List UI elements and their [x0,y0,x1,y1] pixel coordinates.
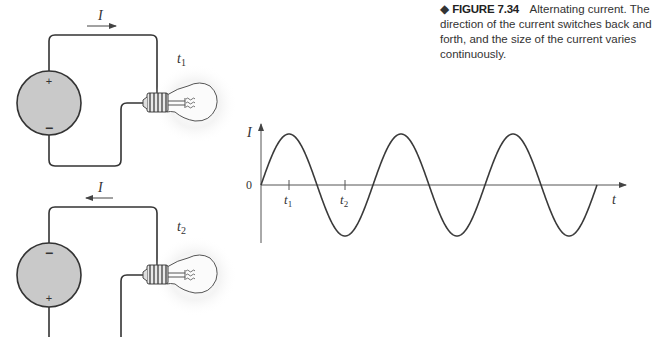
tick-t2-label: t2 [340,192,348,209]
origin-label: 0 [246,178,252,192]
current-2-label: I [97,180,104,195]
figure-canvas: + − I t1 − + I t2 [0,0,666,337]
battery-2-bottom-sign: + [46,292,52,304]
current-1-label: I [97,8,104,23]
tick-t1-label: t1 [284,192,292,209]
x-axis-label: t [612,192,617,207]
ac-current-graph: I 0 t t1 t2 [246,124,626,243]
battery-1-top-sign: + [46,75,52,87]
y-axis-label: I [246,125,253,140]
battery-2-top-sign: − [45,245,53,261]
circuit-2: − + I t2 [17,180,237,337]
circuit-1: + − I t1 [17,8,237,166]
battery-1-bottom-sign: − [45,120,53,136]
time-2-label: t2 [177,219,186,236]
